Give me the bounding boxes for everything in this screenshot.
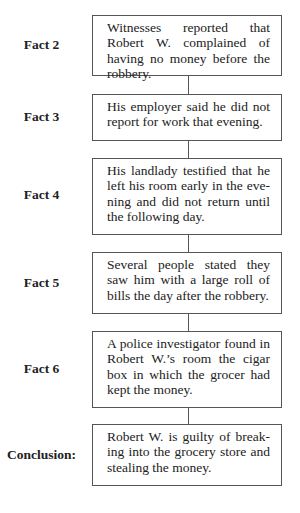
- fact-5-box: Several people stated they saw him with …: [92, 252, 282, 314]
- fact-6-box: A police investigator found in Robert W.…: [92, 331, 282, 408]
- connector-line: [188, 76, 189, 94]
- fact-2-label: Fact 2: [0, 37, 83, 53]
- fact-3-box: His employer said he did not report for …: [92, 94, 282, 141]
- fact-4-box: His landlady testified that he left his …: [92, 158, 282, 235]
- conclusion-label: Conclusion:: [0, 447, 83, 463]
- fact-5-label: Fact 5: [0, 275, 83, 291]
- connector-line: [188, 408, 189, 424]
- connector-line: [188, 235, 189, 252]
- fact-6-label: Fact 6: [0, 361, 83, 377]
- fact-2-box: Witnesses reported that Robert W. compla…: [92, 15, 282, 76]
- fact-3-label: Fact 3: [0, 109, 83, 125]
- conclusion-box: Robert W. is guilty of break­ing into th…: [92, 424, 282, 486]
- connector-line: [188, 141, 189, 158]
- fact-4-label: Fact 4: [0, 187, 83, 203]
- connector-line: [188, 314, 189, 331]
